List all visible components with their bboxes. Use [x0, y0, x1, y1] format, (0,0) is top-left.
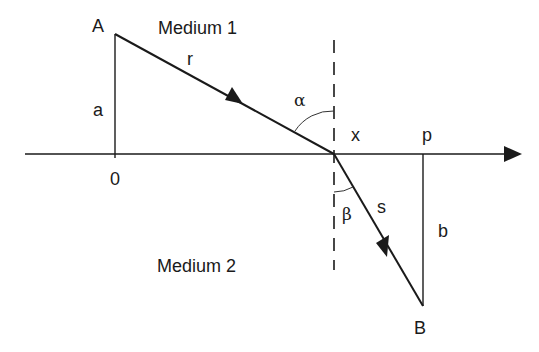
point-b-label: B — [414, 318, 426, 338]
axis-arrow-icon — [504, 146, 522, 162]
medium-1-label: Medium 1 — [158, 18, 237, 38]
r-label: r — [187, 49, 193, 69]
beta-arc — [334, 187, 353, 192]
alpha-label: α — [294, 90, 306, 110]
refracted-ray — [334, 154, 423, 306]
s-label: s — [377, 197, 386, 217]
beta-label: β — [342, 204, 352, 224]
incident-arrow-icon — [225, 87, 243, 104]
a-label: a — [93, 100, 104, 120]
p-label: p — [422, 125, 432, 145]
medium-2-label: Medium 2 — [157, 256, 236, 276]
alpha-arc — [295, 111, 334, 131]
x-axis — [25, 146, 522, 162]
origin-label: 0 — [110, 169, 120, 189]
refraction-diagram: Medium 1 Medium 2 A B 0 x p r s a b α β — [0, 0, 539, 352]
b-label: b — [438, 221, 448, 241]
point-a-label: A — [92, 16, 104, 36]
x-label: x — [351, 125, 360, 145]
